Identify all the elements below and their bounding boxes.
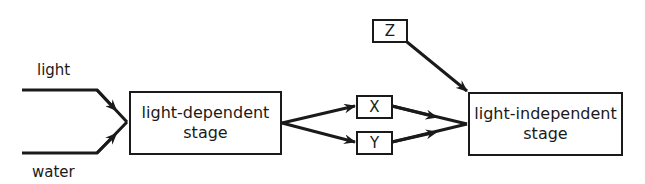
ld-to-x-arrow <box>282 106 355 123</box>
z-box: Z <box>372 19 408 43</box>
z-to-li-arrow <box>407 42 467 91</box>
light-dependent-label: light-dependent <box>142 103 270 123</box>
x-label: X <box>369 98 379 116</box>
photosynthesis-diagram: light water light-dependent stage X Y Z … <box>0 0 645 184</box>
water-input-label: water <box>32 163 75 181</box>
z-label: Z <box>385 22 395 40</box>
light-input-label: light <box>37 61 70 79</box>
y-box: Y <box>356 131 393 155</box>
x-box: X <box>356 95 393 119</box>
y-label: Y <box>370 134 379 152</box>
light-dependent-stage-label: stage <box>142 123 270 143</box>
light-independent-stage-label: stage <box>474 124 616 144</box>
light-dependent-stage-box: light-dependent stage <box>129 91 282 155</box>
light-independent-stage-box: light-independent stage <box>468 92 623 156</box>
ld-to-y-arrow <box>282 123 355 142</box>
light-independent-label: light-independent <box>474 104 616 124</box>
